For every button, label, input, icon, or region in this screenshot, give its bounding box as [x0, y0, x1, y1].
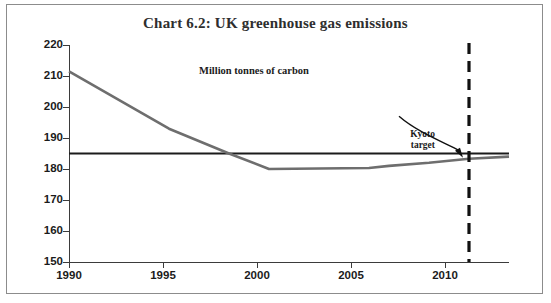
x-tick-label: 2000	[244, 269, 270, 281]
x-tick-label: 1995	[150, 269, 176, 281]
y-tick-label: 220	[23, 38, 63, 50]
x-tick-label: 2010	[432, 269, 458, 281]
x-tick	[445, 262, 446, 268]
plot-area: 220 210 200 190 180 170 160 150 1990 199…	[69, 45, 509, 262]
x-tick	[163, 262, 164, 268]
y-tick-label: 200	[23, 100, 63, 112]
series-layer	[69, 45, 509, 262]
x-tick	[257, 262, 258, 268]
chart-frame: Chart 6.2: UK greenhouse gas emissions 2…	[6, 4, 543, 294]
x-tick	[351, 262, 352, 268]
x-tick-label: 1990	[56, 269, 82, 281]
y-tick-label: 170	[23, 193, 63, 205]
x-tick	[69, 262, 70, 268]
y-tick-label: 150	[23, 255, 63, 267]
chart-title: Chart 6.2: UK greenhouse gas emissions	[7, 15, 544, 32]
x-tick-label: 2005	[338, 269, 364, 281]
y-tick-label: 160	[23, 224, 63, 236]
kyoto-target-arrow-icon	[399, 116, 460, 151]
x-axis	[69, 262, 509, 263]
y-tick-label: 210	[23, 69, 63, 81]
y-tick-label: 180	[23, 162, 63, 174]
y-tick-label: 190	[23, 131, 63, 143]
